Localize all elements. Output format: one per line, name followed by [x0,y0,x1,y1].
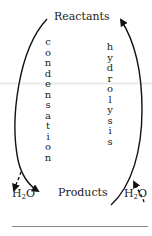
letter: n [43,153,53,164]
condensation-label: condensation [43,37,53,163]
letter: i [105,126,115,137]
letter: d [105,63,115,74]
letter: y [105,105,115,116]
letter: s [43,100,53,111]
bottom-rule [12,226,148,227]
hydrolysis-arrow [111,20,142,205]
letter: s [105,137,115,148]
letter: h [105,42,115,53]
letter: e [43,79,53,90]
letter: n [43,58,53,69]
letter: o [105,84,115,95]
products-label: Products [58,187,108,199]
hydrolysis-label: hydrolysis [105,42,115,147]
letter: o [43,142,53,153]
letter: t [43,121,53,132]
condensation-hydrolysis-diagram: Reactants Products H2O H2O condensation … [0,0,152,236]
water-right-label: H2O [124,188,147,203]
letter: c [43,37,53,48]
water-left-label: H2O [12,188,35,203]
reactants-label: Reactants [54,11,110,23]
